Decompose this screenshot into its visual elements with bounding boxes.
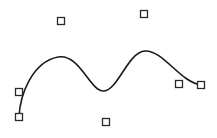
control-point-handle[interactable]: [176, 81, 183, 88]
control-point-handle[interactable]: [141, 11, 148, 18]
control-points-group: [16, 11, 205, 126]
spline-curve: [19, 51, 201, 117]
control-point-handle[interactable]: [103, 119, 110, 126]
control-point-handle[interactable]: [58, 18, 65, 25]
control-point-handle[interactable]: [198, 82, 205, 89]
control-point-handle[interactable]: [16, 114, 23, 121]
spline-diagram: [0, 0, 217, 138]
control-point-handle[interactable]: [16, 89, 23, 96]
